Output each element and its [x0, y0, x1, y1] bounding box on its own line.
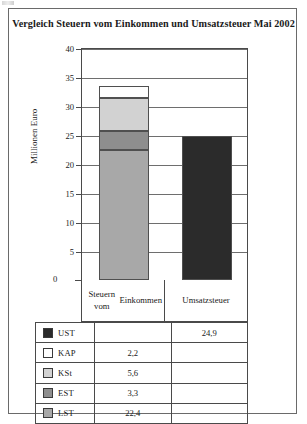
y-tick-15 — [76, 194, 82, 195]
legend-key-kap: KAP — [36, 343, 95, 362]
y-axis-label-20: 20 — [65, 160, 74, 170]
legend-swatch-kst — [43, 368, 53, 378]
y-axis-label-40: 40 — [65, 44, 74, 54]
legend-value-umsatzsteuer-ust: 24,9 — [171, 323, 248, 342]
y-tick-35 — [76, 78, 82, 79]
y-tick-40 — [76, 49, 82, 50]
chart-frame: Vergleich Steuern vom Einkommen und Umsa… — [8, 8, 297, 414]
legend-row: UST24,9 — [36, 323, 247, 343]
y-axis-label-35: 35 — [65, 73, 74, 83]
bar-segment-ust — [182, 136, 232, 280]
chart-title: Vergleich Steuern vom Einkommen und Umsa… — [9, 18, 298, 29]
y-tick-25 — [76, 136, 82, 137]
legend-value-umsatzsteuer-kst — [171, 363, 248, 382]
legend-row: EST3,3 — [36, 384, 247, 404]
legend-value-einkommen-est: 3,3 — [95, 384, 171, 403]
legend-swatch-lst — [43, 408, 53, 418]
gridline-35 — [82, 78, 247, 79]
gridline-40 — [82, 49, 247, 50]
legend-value-umsatzsteuer-lst — [171, 404, 248, 423]
legend-row: KSt5,6 — [36, 363, 247, 383]
legend-value-einkommen-kst: 5,6 — [95, 363, 171, 382]
bar-segment-kap — [99, 86, 149, 99]
y-tick-30 — [76, 107, 82, 108]
legend-key-est: EST — [36, 384, 95, 403]
y-axis-label-5: 5 — [70, 247, 74, 257]
bar-umsatzsteuer — [182, 136, 232, 280]
y-tick-20 — [76, 165, 82, 166]
legend-value-einkommen-lst: 22,4 — [95, 404, 171, 423]
legend-row: KAP2,2 — [36, 343, 247, 363]
y-tick-5 — [76, 252, 82, 253]
scan-artifact — [2, 1, 14, 5]
bar-segment-kst — [99, 98, 149, 130]
legend-label-ust: UST — [58, 328, 75, 338]
legend-label-est: EST — [58, 388, 74, 398]
y-axis-label-zero: 0 — [53, 274, 57, 284]
legend-key-ust: UST — [36, 323, 95, 342]
legend-table: UST24,9KAP2,2KSt5,6EST3,3LST22,4 — [35, 322, 248, 424]
y-tick-10 — [76, 223, 82, 224]
plot-area: 510152025303540 — [81, 48, 248, 280]
legend-key-kst: KSt — [36, 363, 95, 382]
y-axis-title: Millionen Euro — [29, 109, 39, 164]
legend-label-kst: KSt — [58, 368, 72, 378]
legend-swatch-ust — [43, 328, 53, 338]
y-axis-label-25: 25 — [65, 131, 74, 141]
y-axis-label-15: 15 — [65, 189, 74, 199]
y-axis-label-30: 30 — [65, 102, 74, 112]
category-axis: Steuern vomEinkommenUmsatzsteuer — [81, 280, 248, 322]
legend-value-einkommen-ust — [95, 323, 171, 342]
category-label-steuern-vom-einkommen: Steuern vomEinkommen — [82, 280, 164, 321]
legend-value-umsatzsteuer-est — [171, 384, 248, 403]
bar-segment-est — [99, 131, 149, 150]
legend-label-kap: KAP — [58, 348, 76, 358]
legend-value-einkommen-kap: 2,2 — [95, 343, 171, 362]
legend-swatch-est — [43, 388, 53, 398]
bar-steuern-vom-einkommen — [99, 86, 149, 280]
legend-key-lst: LST — [36, 404, 95, 423]
legend-swatch-kap — [43, 348, 53, 358]
legend-row: LST22,4 — [36, 404, 247, 424]
bar-segment-lst — [99, 150, 149, 280]
legend-value-umsatzsteuer-kap — [171, 343, 248, 362]
y-axis-label-10: 10 — [65, 218, 74, 228]
legend-label-lst: LST — [58, 408, 74, 418]
category-label-umsatzsteuer: Umsatzsteuer — [164, 280, 247, 321]
